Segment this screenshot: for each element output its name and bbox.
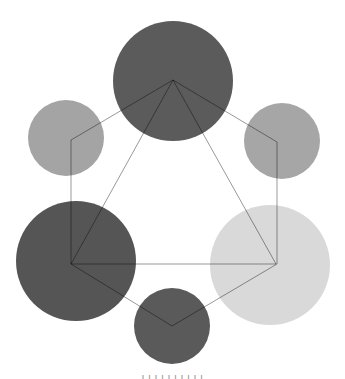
caption-area: l l l l l l l l l l [0,371,345,379]
circle-lower-left [16,201,136,321]
circle-upper-right [244,103,320,179]
circle-upper-left [28,100,104,176]
circle-lower-right [210,205,330,325]
caption-text: l l l l l l l l l l [0,374,345,379]
hexagon-triangle-circles-diagram [0,0,345,379]
circles-layer [16,21,330,364]
